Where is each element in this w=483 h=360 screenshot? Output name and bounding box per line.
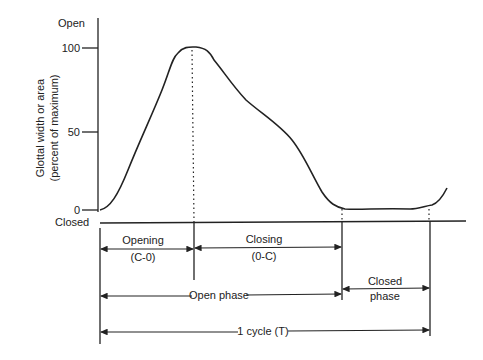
tick-50: 50	[68, 126, 80, 138]
phase-guides	[192, 50, 429, 222]
svg-text:(percent of maximum): (percent of maximum)	[48, 75, 60, 182]
glottal-waveform	[100, 47, 447, 210]
opening-label: Opening	[122, 234, 164, 246]
tick-100: 100	[62, 42, 80, 54]
closed-phase-label-2: phase	[370, 290, 400, 302]
tick-0: 0	[74, 204, 80, 216]
open-phase-label: Open phase	[189, 289, 249, 301]
svg-text:Glottal width or area: Glottal width or area	[34, 78, 46, 177]
cycle-label: 1 cycle (T)	[237, 325, 288, 337]
closing-code: (0-C)	[251, 250, 276, 262]
y-axis-label: Glottal width or area (percent of maximu…	[34, 75, 60, 182]
axes	[82, 18, 466, 223]
open-label: Open	[58, 17, 85, 29]
closing-label: Closing	[246, 233, 283, 245]
opening-code: (C-0)	[130, 251, 155, 263]
closed-phase-label: Closed	[368, 275, 402, 287]
closed-label: Closed	[55, 216, 89, 228]
glottal-cycle-diagram: Glottal width or area (percent of maximu…	[0, 0, 483, 360]
